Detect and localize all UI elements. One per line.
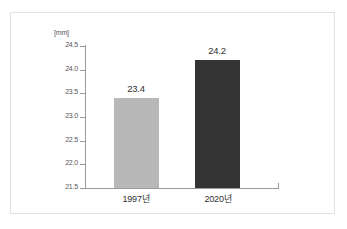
plot-area: [mm] 24.524.023.523.022.522.021.5 23.4 2… bbox=[0, 0, 347, 229]
y-tick-label-wrap: 23.0 bbox=[48, 112, 78, 122]
y-axis-unit-label: [mm] bbox=[54, 29, 69, 36]
y-tick-label-wrap: 24.0 bbox=[48, 65, 78, 75]
y-tick-mark bbox=[80, 70, 85, 71]
y-tick-label: 22.0 bbox=[52, 159, 78, 166]
y-tick-label: 21.5 bbox=[52, 183, 78, 190]
chart-figure: [mm] 24.524.023.523.022.522.021.5 23.4 2… bbox=[0, 0, 347, 229]
y-tick-label: 23.5 bbox=[52, 88, 78, 95]
bar-value-label-1997: 23.4 bbox=[106, 83, 166, 94]
y-axis-line bbox=[85, 45, 86, 189]
y-tick-label: 24.5 bbox=[52, 41, 78, 48]
y-tick-mark bbox=[80, 141, 85, 142]
y-tick-mark bbox=[80, 188, 85, 189]
x-axis-line bbox=[85, 188, 279, 189]
x-axis-label-2020: 2020년 bbox=[183, 192, 253, 205]
y-tick-mark bbox=[80, 117, 85, 118]
y-tick-label-wrap: 23.5 bbox=[48, 88, 78, 98]
bar-2020 bbox=[195, 60, 240, 188]
x-axis-end-tick bbox=[278, 183, 279, 189]
y-tick-label: 23.0 bbox=[52, 112, 78, 119]
y-tick-label: 24.0 bbox=[52, 65, 78, 72]
bar-value-label-2020: 24.2 bbox=[187, 45, 247, 56]
y-tick-mark bbox=[80, 93, 85, 94]
bar-1997 bbox=[114, 98, 159, 188]
y-tick-label-wrap: 21.5 bbox=[48, 183, 78, 193]
y-tick-label-wrap: 22.5 bbox=[48, 136, 78, 146]
x-axis-label-1997: 1997년 bbox=[101, 192, 171, 205]
y-tick-mark bbox=[80, 164, 85, 165]
y-tick-mark bbox=[80, 46, 85, 47]
y-tick-label: 22.5 bbox=[52, 136, 78, 143]
y-tick-label-wrap: 22.0 bbox=[48, 159, 78, 169]
y-tick-label-wrap: 24.5 bbox=[48, 41, 78, 51]
